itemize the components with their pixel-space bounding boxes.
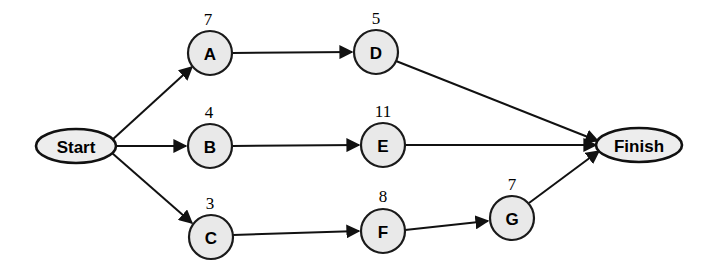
node-g-duration: 7	[508, 175, 517, 194]
node-d-duration: 5	[372, 9, 381, 28]
edge-c-f	[233, 231, 359, 235]
node-b-label: B	[204, 138, 216, 157]
node-start[interactable]: Start	[36, 129, 116, 163]
node-finish[interactable]: Finish	[596, 128, 682, 162]
edge-g-finish	[529, 151, 599, 203]
node-f-label: F	[378, 223, 388, 242]
edge-start-c	[112, 153, 192, 223]
edge-d-finish	[396, 61, 598, 141]
node-b-duration: 4	[205, 103, 214, 122]
node-c[interactable]: C 3	[189, 194, 233, 259]
node-a[interactable]: A 7	[188, 10, 232, 75]
edge-a-d	[232, 52, 352, 53]
node-d-label: D	[370, 44, 382, 63]
node-d[interactable]: D 5	[354, 9, 398, 74]
edge-f-g	[405, 221, 488, 230]
start-label: Start	[57, 138, 96, 157]
edge-start-a	[112, 67, 192, 140]
node-a-duration: 7	[204, 10, 213, 29]
node-e[interactable]: E 11	[361, 102, 405, 167]
node-e-duration: 11	[375, 102, 391, 121]
finish-label: Finish	[614, 137, 664, 156]
node-a-label: A	[204, 45, 216, 64]
edge-b-e	[232, 145, 359, 146]
network-diagram: Start Finish A 7 D 5 B 4 E 11	[0, 0, 704, 277]
node-c-label: C	[205, 229, 217, 248]
node-g-label: G	[505, 210, 518, 229]
node-e-label: E	[377, 137, 388, 156]
node-c-duration: 3	[206, 194, 215, 213]
network-diagram-canvas: Start Finish A 7 D 5 B 4 E 11	[0, 0, 704, 277]
node-g[interactable]: G 7	[490, 175, 534, 240]
node-f[interactable]: F 8	[361, 187, 405, 253]
node-b[interactable]: B 4	[188, 103, 232, 168]
node-f-duration: 8	[379, 187, 388, 206]
